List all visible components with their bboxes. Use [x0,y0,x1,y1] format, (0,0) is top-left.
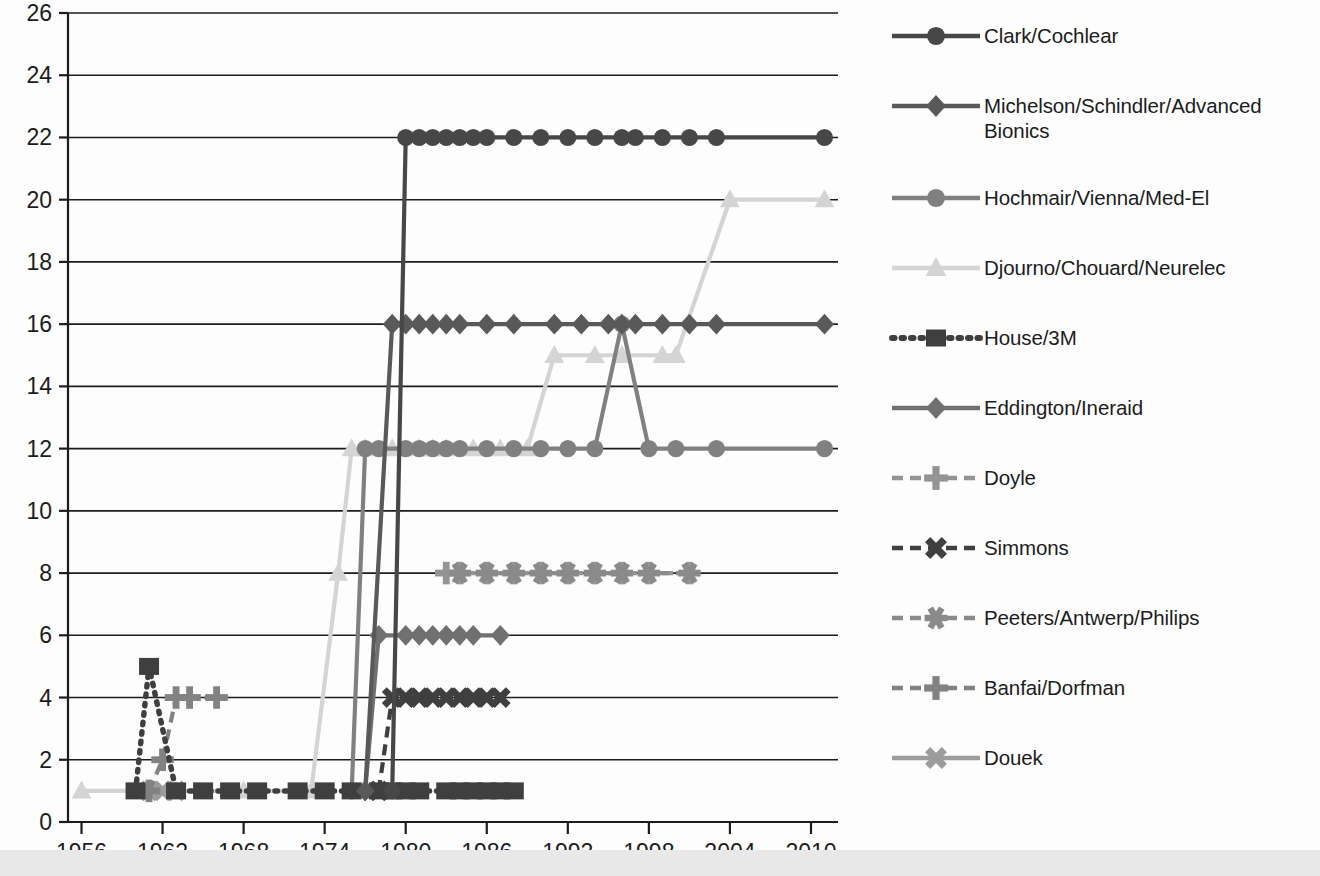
legend-item-eddington-ineraid[interactable]: Eddington/Ineraid [888,390,1308,460]
marker-square [504,782,524,799]
marker-circle [384,782,401,799]
square-marker [126,782,146,799]
legend-swatch-icon [888,536,984,560]
circle-marker [505,440,522,457]
legend-item-label: Simmons [984,530,1069,560]
marker-diamond [653,314,672,335]
diamond-marker [626,314,645,335]
diamond-marker [926,95,946,117]
marker-diamond [477,314,496,335]
legend-item-label: Michelson/Schindler/Advanced Bionics [984,88,1284,143]
marker-diamond [707,314,726,335]
marker-square [126,782,146,799]
legend-swatch-icon [888,326,984,350]
square-marker [288,782,308,799]
legend-item-michelson-schindler-advanced-bionics[interactable]: Michelson/Schindler/Advanced Bionics [888,88,1308,180]
circle-marker [681,129,698,146]
marker-square [139,658,159,675]
marker-diamond [545,314,564,335]
marker-circle [667,440,684,457]
circle-marker [927,27,945,45]
legend-swatch-icon [888,746,984,770]
diamond-marker [477,314,496,335]
y-tick-label-8: 8 [39,560,52,586]
square-marker [193,782,213,799]
series-line [365,635,500,791]
legend-item-label: Eddington/Ineraid [984,390,1143,420]
marker-circle [708,129,725,146]
circle-marker [384,782,401,799]
circle-marker [478,440,495,457]
diamond-marker [653,314,672,335]
y-tick-label-22: 22 [26,124,52,150]
legend-item-house-3m[interactable]: House/3M [888,320,1308,390]
marker-diamond [926,397,946,419]
square-marker [409,782,429,799]
square-marker [166,782,186,799]
legend-item-douek[interactable]: Douek [888,740,1308,810]
marker-circle [586,440,603,457]
square-marker [504,782,524,799]
marker-circle [478,440,495,457]
plus-marker-v [932,466,939,490]
y-axis: 02468101214161820222426 [26,0,68,835]
y-tick-label-12: 12 [26,436,52,462]
marker-diamond [815,314,834,335]
diamond-marker [707,314,726,335]
bottom-gray-band [0,850,1320,876]
plus-marker-v [186,686,193,709]
legend-swatch-icon [888,94,984,118]
series-eddington-ineraid [356,625,510,801]
diamond-marker [491,625,510,646]
plus-marker-v [213,686,220,709]
circle-marker [559,440,576,457]
y-tick-label-26: 26 [26,0,52,26]
circle-marker [586,440,603,457]
legend-item-hochmair-vienna-med-el[interactable]: Hochmair/Vienna/Med-El [888,180,1308,250]
y-tick-label-6: 6 [39,622,52,648]
marker-square [926,330,946,347]
marker-circle [681,129,698,146]
marker-square [166,782,186,799]
diamond-marker [464,625,483,646]
square-marker [139,658,159,675]
legend-swatch-icon [888,256,984,280]
legend-item-simmons[interactable]: Simmons [888,530,1308,600]
legend-item-clark-cochlear[interactable]: Clark/Cochlear [888,18,1308,88]
square-marker [247,782,267,799]
legend-line-sample [888,326,984,350]
circle-marker [505,129,522,146]
marker-circle [654,129,671,146]
marker-square [315,782,335,799]
legend-item-label: Banfai/Dorfman [984,670,1125,700]
legend-swatch-icon [888,24,984,48]
marker-diamond [491,625,510,646]
marker-triangle [328,563,348,581]
legend-item-banfai-dorfman[interactable]: Banfai/Dorfman [888,670,1308,740]
chart-figure: 0246810121416182022242619561962196819741… [0,0,1320,876]
marker-circle [927,27,945,45]
circle-marker [532,440,549,457]
marker-diamond [464,625,483,646]
circle-marker [586,129,603,146]
circle-marker [927,189,945,207]
legend-swatch-icon [888,186,984,210]
legend-line-sample [888,676,984,700]
y-tick-label-2: 2 [39,747,52,773]
legend-item-peeters-antwerp-philips[interactable]: Peeters/Antwerp/Philips [888,600,1308,670]
marker-diamond [504,314,523,335]
square-marker [315,782,335,799]
marker-circle [708,440,725,457]
y-tick-label-18: 18 [26,249,52,275]
marker-square [247,782,267,799]
legend-line-sample [888,746,984,770]
marker-circle [451,440,468,457]
circle-marker [532,129,549,146]
legend-item-djourno-chouard-neurelec[interactable]: Djourno/Chouard/Neurelec [888,250,1308,320]
marker-plus [924,676,948,700]
legend-item-label: House/3M [984,320,1077,350]
marker-circle [559,129,576,146]
legend-item-doyle[interactable]: Doyle [888,460,1308,530]
marker-circle [816,440,833,457]
legend-item-label: Djourno/Chouard/Neurelec [984,250,1225,280]
